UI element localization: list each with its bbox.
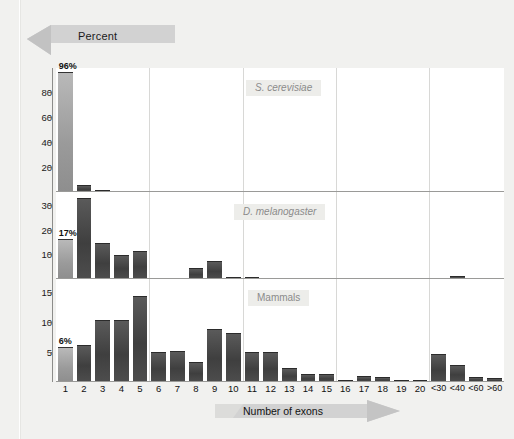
x-tick-label: 16 [340, 383, 351, 394]
x-tick-label: 3 [100, 383, 105, 394]
bar [226, 333, 241, 383]
x-axis-title: Number of exons [243, 405, 323, 417]
panel-baseline [56, 381, 504, 382]
x-tick-label: 13 [284, 383, 295, 394]
x-tick-label: 2 [81, 383, 86, 394]
bar [58, 72, 73, 192]
x-tick-label: <40 [450, 383, 465, 393]
y-tickmark [48, 254, 52, 255]
x-tick-label: 19 [396, 383, 407, 394]
figure-root: Percent 20 40 60 80 10 20 30 5 10 15 96% [0, 0, 514, 439]
bar [207, 261, 222, 279]
bar [189, 362, 204, 382]
x-tick-label: 8 [193, 383, 198, 394]
x-tick-label: <30 [431, 383, 446, 393]
bar [170, 351, 185, 382]
x-tick-label: 20 [415, 383, 426, 394]
bar [58, 347, 73, 382]
bar [95, 320, 110, 382]
panel-caption-d-melanogaster: D. melanogaster [234, 204, 325, 220]
bar [77, 198, 92, 279]
bar [431, 354, 446, 382]
y-axis: 20 40 60 80 10 20 30 5 10 15 [0, 68, 56, 382]
y-axis-title: Percent [78, 30, 117, 42]
bar [114, 320, 129, 382]
plot-area: 96% 17% 6% S. cerevisiae D. melanogaster… [56, 68, 504, 382]
bar [207, 329, 222, 382]
y-axis-line-yeast [52, 68, 53, 192]
bar [77, 345, 92, 382]
panel-caption-s-cerevisiae: S. cerevisiae [246, 80, 321, 96]
x-tick-label: 5 [137, 383, 142, 394]
x-tick-label: 17 [359, 383, 370, 394]
x-tick-label: 15 [321, 383, 332, 394]
bar [245, 352, 260, 382]
y-tickmark [48, 117, 52, 118]
x-tick-label: 18 [377, 383, 388, 394]
bar [282, 368, 297, 382]
x-axis: 1234567891011121314151617181920<30<40<60… [56, 383, 504, 399]
y-tickmark [48, 230, 52, 231]
bar-value-label: 6% [59, 336, 72, 346]
panel-caption-mammals: Mammals [248, 290, 309, 306]
x-tick-label: 9 [212, 383, 217, 394]
x-tick-label: 10 [228, 383, 239, 394]
y-axis-line-fly [52, 192, 53, 279]
y-tickmark [48, 92, 52, 93]
bar [450, 365, 465, 382]
y-tickmark [48, 352, 52, 353]
x-tick-label: 7 [175, 383, 180, 394]
bar [151, 352, 166, 382]
bar [263, 352, 278, 382]
y-tickmark [48, 167, 52, 168]
y-tickmark [48, 292, 52, 293]
y-tickmark [48, 205, 52, 206]
bar [133, 251, 148, 279]
x-tick-label: 4 [119, 383, 124, 394]
y-axis-line-mammal [52, 279, 53, 382]
x-tick-label: <60 [468, 383, 483, 393]
x-tick-label: 1 [63, 383, 68, 394]
bar-value-label: 96% [59, 61, 77, 71]
x-tick-label: >60 [487, 383, 502, 393]
bar-value-label: 17% [59, 228, 77, 238]
bar [58, 239, 73, 279]
bar [95, 243, 110, 279]
bar [133, 296, 148, 382]
bar [114, 255, 129, 279]
x-tick-label: 14 [303, 383, 314, 394]
x-tick-label: 6 [156, 383, 161, 394]
y-tickmark [48, 322, 52, 323]
x-tick-label: 11 [247, 383, 257, 394]
x-tick-label: 12 [265, 383, 276, 394]
y-tickmark [48, 142, 52, 143]
